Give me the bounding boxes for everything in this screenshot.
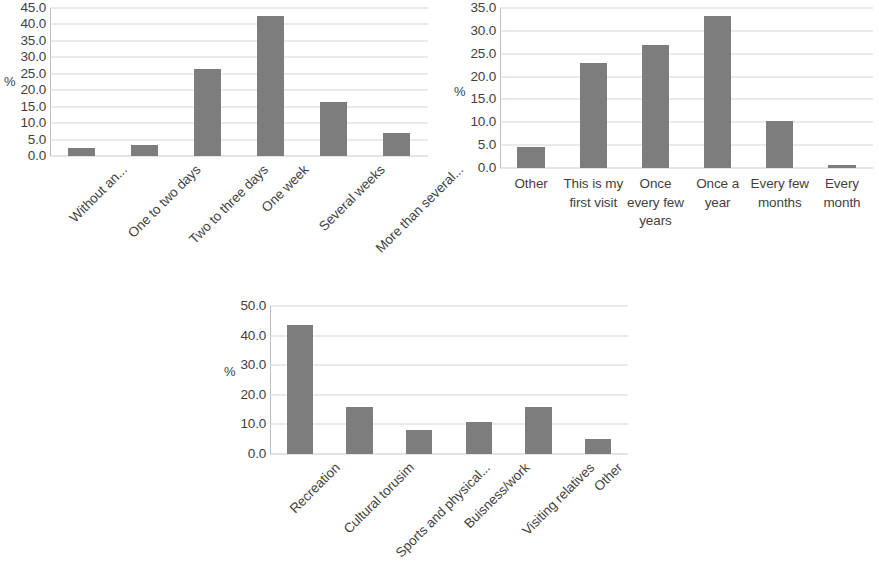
bar-slot — [568, 306, 628, 454]
panel-b-bars — [500, 8, 873, 168]
panel-a-y-tick: 30.0 — [21, 51, 46, 65]
x-label-slot: Every few months — [749, 170, 811, 280]
panel-b-y-tick: 5.0 — [478, 138, 496, 152]
chart-panel-a: % 0.05.010.015.020.025.030.035.040.045.0… — [0, 0, 440, 290]
panel-b-y-tick: 25.0 — [471, 47, 496, 61]
panel-b-x-labels: OtherThis is my first visitOnce every fe… — [500, 170, 873, 280]
bar-slot — [509, 306, 569, 454]
panel-c-plot-area — [270, 306, 628, 454]
bar — [585, 439, 611, 454]
x-label-slot: This is my first visit — [562, 170, 624, 280]
x-label-slot: Other — [500, 170, 562, 280]
figure-charts-panel: % 0.05.010.015.020.025.030.035.040.045.0… — [0, 0, 879, 564]
panel-a-y-tick: 25.0 — [21, 67, 46, 81]
panel-c-y-tick: 40.0 — [241, 329, 266, 343]
x-axis-tick-label: Every few months — [749, 175, 811, 212]
x-label-slot: Without an... — [50, 158, 113, 278]
bar — [704, 16, 731, 168]
panel-c-y-tick: 20.0 — [241, 388, 266, 402]
panel-b-plot-body: 0.05.010.015.020.025.030.035.0 — [458, 8, 873, 168]
bar — [287, 325, 313, 454]
panel-b-y-ticks: 0.05.010.015.020.025.030.035.0 — [458, 8, 500, 168]
bar — [320, 102, 348, 156]
x-label-slot: Other — [568, 456, 628, 561]
bar-slot — [239, 8, 302, 156]
bar — [131, 145, 159, 157]
bar-slot — [302, 8, 365, 156]
bar-slot — [687, 8, 749, 168]
x-label-slot: Once a year — [687, 170, 749, 280]
bar-slot — [562, 8, 624, 168]
bar — [580, 63, 607, 168]
panel-b-y-tick: 10.0 — [471, 116, 496, 130]
panel-a-y-tick: 0.0 — [28, 149, 46, 163]
panel-c-plot-body: 0.010.020.030.040.050.0 — [228, 306, 628, 454]
panel-a-y-tick: 35.0 — [21, 34, 46, 48]
bar-slot — [811, 8, 873, 168]
x-label-slot: Two to three days — [176, 158, 239, 278]
bar-slot — [270, 306, 330, 454]
bar — [346, 407, 372, 454]
panel-a-y-tick: 5.0 — [28, 133, 46, 147]
x-axis-tick-label: Every month — [811, 175, 873, 212]
bar — [257, 16, 285, 156]
bar — [517, 147, 544, 168]
panel-b-y-tick: 30.0 — [471, 24, 496, 38]
bar — [466, 422, 492, 454]
panel-c-bars — [270, 306, 628, 454]
bar — [642, 45, 669, 168]
x-axis-tick-label: Other — [591, 460, 625, 494]
chart-panel-b: % 0.05.010.015.020.025.030.035.0 OtherTh… — [440, 0, 879, 290]
panel-a-y-tick: 45.0 — [21, 1, 46, 15]
x-label-slot: Visiting relatives — [509, 456, 569, 561]
panel-c-y-tick: 0.0 — [248, 447, 266, 461]
bar-slot — [500, 8, 562, 168]
x-axis-tick-label: This is my first visit — [562, 175, 624, 212]
panel-a-bars — [50, 8, 428, 156]
bar-slot — [389, 306, 449, 454]
x-axis-tick-label: Once every few years — [624, 175, 686, 231]
panel-c-y-ticks: 0.010.020.030.040.050.0 — [228, 306, 270, 454]
panel-a-x-labels: Without an...One to two daysTwo to three… — [50, 158, 428, 278]
panel-c-x-labels: RecreationCultural torusimSports and phy… — [270, 456, 628, 561]
panel-a-y-tick: 20.0 — [21, 83, 46, 97]
panel-b-y-tick: 35.0 — [471, 1, 496, 15]
bar — [828, 165, 855, 168]
panel-a-plot-body: 0.05.010.015.020.025.030.035.040.045.0 — [8, 8, 428, 156]
x-label-slot: Every month — [811, 170, 873, 280]
bar-slot — [113, 8, 176, 156]
bar — [525, 407, 551, 454]
bar — [383, 133, 411, 156]
bar-slot — [330, 306, 390, 454]
x-axis-tick-label: Once a year — [687, 175, 749, 212]
panel-b-y-tick: 15.0 — [471, 93, 496, 107]
x-label-slot: Once every few years — [624, 170, 686, 280]
bar-slot — [624, 8, 686, 168]
x-label-slot: Recreation — [270, 456, 330, 561]
panel-a-y-tick: 15.0 — [21, 100, 46, 114]
panel-b-y-tick: 0.0 — [478, 161, 496, 175]
panel-a-y-tick: 40.0 — [21, 18, 46, 32]
x-label-slot: Buisness/work — [449, 456, 509, 561]
x-label-slot: Several weeks — [302, 158, 365, 278]
bar — [766, 121, 793, 168]
bar-slot — [176, 8, 239, 156]
x-label-slot: Sports and physical... — [389, 456, 449, 561]
bar-slot — [50, 8, 113, 156]
panel-c-y-tick: 10.0 — [241, 418, 266, 432]
panel-b-y-tick: 20.0 — [471, 70, 496, 84]
x-axis-tick-label: Other — [500, 175, 562, 194]
x-label-slot: Cultural torusim — [330, 456, 390, 561]
bar — [68, 148, 96, 156]
panel-b-plot-area — [500, 8, 873, 168]
panel-a-y-ticks: 0.05.010.015.020.025.030.035.040.045.0 — [8, 8, 50, 156]
panel-c-y-tick: 30.0 — [241, 358, 266, 372]
bar-slot — [749, 8, 811, 168]
x-label-slot: One week — [239, 158, 302, 278]
bar-slot — [365, 8, 428, 156]
bar-slot — [449, 306, 509, 454]
panel-a-y-tick: 10.0 — [21, 116, 46, 130]
x-label-slot: One to two days — [113, 158, 176, 278]
panel-c-y-tick: 50.0 — [241, 299, 266, 313]
panel-a-plot-area — [50, 8, 428, 156]
